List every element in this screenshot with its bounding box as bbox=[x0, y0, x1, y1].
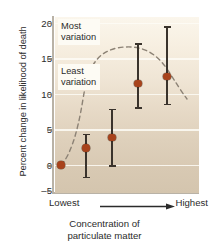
error-bar-cap-top bbox=[164, 26, 171, 28]
x-axis-low-label: Lowest bbox=[49, 197, 79, 208]
data-point bbox=[163, 73, 171, 81]
arrow-right-icon bbox=[100, 203, 176, 210]
error-bar bbox=[166, 26, 168, 104]
data-point bbox=[134, 80, 142, 88]
y-axis-line bbox=[52, 16, 54, 194]
data-point bbox=[57, 161, 65, 169]
x-axis-high-label: Highest bbox=[175, 197, 208, 208]
y-axis-tick-labels: 20 15 10 5 0 –5 bbox=[26, 0, 52, 251]
error-bar bbox=[137, 43, 139, 107]
error-bar-cap-top bbox=[135, 43, 142, 45]
data-point bbox=[82, 144, 90, 152]
error-bar bbox=[85, 134, 87, 177]
error-bar-cap-top bbox=[109, 109, 116, 111]
error-bar-cap-bottom bbox=[135, 107, 142, 109]
error-bar-cap-bottom bbox=[83, 177, 90, 179]
error-bar-cap-top bbox=[83, 134, 90, 136]
annotation-least-variation: Least variation bbox=[58, 64, 100, 90]
x-axis-title: Concentration of particulate matter bbox=[0, 218, 209, 243]
error-bar-cap-bottom bbox=[109, 165, 116, 167]
x-axis-range-labels: Lowest Highest bbox=[40, 196, 209, 212]
annotation-most-variation: Most variation bbox=[58, 19, 100, 45]
chart-figure: Percent change in likelihood of death 20… bbox=[0, 0, 209, 251]
error-bar-cap-bottom bbox=[164, 104, 171, 106]
